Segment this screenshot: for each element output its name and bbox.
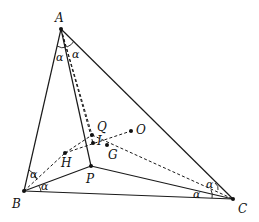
point-o — [129, 129, 133, 133]
label-g: G — [108, 148, 118, 162]
label-h: H — [60, 156, 72, 170]
label-c: C — [238, 202, 247, 216]
point-q — [90, 133, 94, 137]
point-g — [105, 143, 109, 147]
angle-arc-a-right — [67, 41, 74, 47]
alpha-b-lower: α — [41, 180, 49, 193]
alpha-a-right: α — [72, 48, 80, 61]
label-i: I — [96, 134, 102, 148]
alpha-b-upper: α — [30, 168, 38, 181]
alpha-a-left: α — [56, 51, 64, 64]
point-c — [231, 197, 235, 201]
point-a — [59, 27, 63, 31]
label-o: O — [136, 123, 146, 137]
point-b — [22, 189, 26, 193]
alpha-c-upper: α — [206, 178, 214, 191]
label-a: A — [54, 11, 64, 25]
alpha-c-lower: α — [193, 188, 201, 201]
point-p — [89, 164, 93, 168]
label-b: B — [11, 197, 21, 211]
label-p: P — [85, 172, 95, 186]
point-h — [63, 151, 67, 155]
label-q: Q — [97, 120, 107, 134]
geometry-diagram: A B C P Q I G O H α α α α α α — [0, 0, 259, 222]
point-i — [91, 141, 95, 145]
